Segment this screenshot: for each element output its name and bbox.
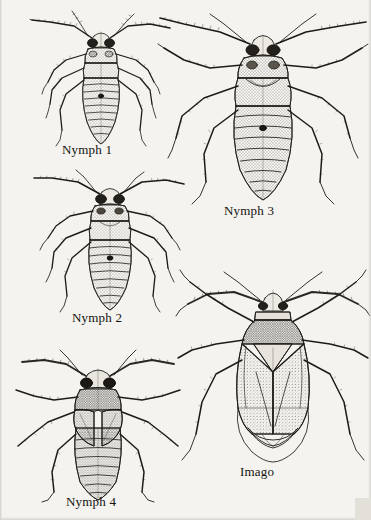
caption-imago: Imago <box>240 464 274 480</box>
page-corner-shadow <box>355 498 371 520</box>
figure-nymph-1 <box>30 8 172 148</box>
caption-nymph-1: Nymph 1 <box>62 142 112 158</box>
illustration-plate: Nymph 1 Nymph 2 Nymph 3 Nymph 4 Imago <box>0 0 371 520</box>
figure-imago <box>176 268 370 466</box>
caption-nymph-3: Nymph 3 <box>224 203 274 219</box>
figure-nymph-4 <box>14 350 184 502</box>
page-edge-left <box>0 0 2 520</box>
figure-nymph-3 <box>158 10 368 208</box>
caption-nymph-4: Nymph 4 <box>66 494 116 510</box>
caption-nymph-2: Nymph 2 <box>72 310 122 326</box>
